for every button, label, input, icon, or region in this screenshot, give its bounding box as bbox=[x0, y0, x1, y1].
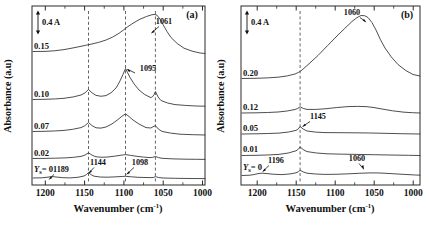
panel-b-scalebar-label: 0.4 A bbox=[251, 18, 269, 27]
panel-b-curve-label-2: 0.05 bbox=[243, 123, 258, 133]
panel-a-xtick-3: 1050 bbox=[154, 188, 173, 198]
panel-b-scalebar: 0.4 A bbox=[245, 11, 269, 35]
panel-b-curve-ys0 bbox=[242, 170, 420, 175]
panel-a-curve-label-0: 0.15 bbox=[34, 41, 49, 51]
panel-a-scalebar-label: 0.4 A bbox=[42, 18, 60, 27]
panel-b: 0.4 A (b) 0.20 0.12 0.05 0.01 Ys= 0 1060… bbox=[215, 6, 423, 215]
panel-a-annotation-1061: 1061 bbox=[151, 17, 172, 33]
panel-a-curve-010 bbox=[33, 69, 205, 107]
panel-b-y-axis-title: Absorbance (a.u) bbox=[215, 59, 227, 132]
panel-a-y-axis-title: Absorbance (a.u) bbox=[2, 59, 14, 132]
panel-a-curve-label-3: 0.02 bbox=[34, 148, 49, 158]
panel-b-x-axis-title: Wavenumber (cm-1) bbox=[285, 202, 375, 215]
panel-a-x-axis-title-close: ) bbox=[159, 203, 163, 215]
panel-b-annotation-1145: 1145 bbox=[302, 112, 326, 127]
panel-a-xtick-2: 1100 bbox=[115, 188, 134, 198]
panel-b-x-axis-title-close: ) bbox=[371, 203, 375, 215]
ftir-spectra-figure: 0.4 A (a) 0.15 0.10 0.07 0.02 Ys= 0 1061… bbox=[0, 0, 429, 229]
panel-b-x-axis-title-main: Wavenumber (cm bbox=[285, 203, 365, 215]
panel-b-id: (b) bbox=[401, 9, 413, 21]
panel-b-xtick-1: 1150 bbox=[287, 188, 306, 198]
panel-b-curve-005 bbox=[242, 127, 420, 135]
panel-b-curve-001 bbox=[242, 147, 420, 156]
figure-svg: 0.4 A (a) 0.15 0.10 0.07 0.02 Ys= 0 1061… bbox=[0, 0, 429, 229]
panel-a-annotation-1144: 1144 bbox=[88, 158, 106, 174]
panel-a-peak-label-1189: 1189 bbox=[53, 165, 69, 174]
panel-a-curve-label-1: 0.10 bbox=[34, 89, 49, 99]
panel-a-xtick-1: 1150 bbox=[75, 188, 94, 198]
panel-b-peak-label-1145: 1145 bbox=[310, 112, 326, 121]
panel-b-xtick-2: 1100 bbox=[326, 188, 345, 198]
panel-a-scalebar: 0.4 A bbox=[36, 11, 60, 35]
panel-a-peak-label-1061: 1061 bbox=[156, 17, 172, 26]
panel-b-curve-label-1: 0.12 bbox=[243, 102, 258, 112]
panel-a: 0.4 A (a) 0.15 0.10 0.07 0.02 Ys= 0 1061… bbox=[2, 6, 212, 215]
panel-b-curve-012 bbox=[242, 106, 420, 113]
panel-a-xtick-4: 1000 bbox=[193, 188, 212, 198]
panel-a-annotation-1095: 1095 bbox=[126, 64, 156, 73]
panel-b-curve-label-3: 0.01 bbox=[243, 144, 258, 154]
panel-a-curve-002 bbox=[33, 153, 205, 160]
panel-b-peak-label-1196: 1196 bbox=[268, 156, 284, 165]
panel-b-xtick-4: 1000 bbox=[404, 188, 423, 198]
panel-b-x-minor-ticks bbox=[277, 6, 394, 185]
panel-b-curve-label-0: 0.20 bbox=[243, 68, 258, 78]
panel-a-xtick-0: 1200 bbox=[36, 188, 55, 198]
panel-b-ys-label: Ys= 0 bbox=[243, 162, 262, 173]
panel-b-peak-label-1060-top: 1060 bbox=[344, 8, 360, 17]
panel-b-annotation-1196: 1196 bbox=[262, 156, 284, 172]
panel-a-x-axis-title-main: Wavenumber (cm bbox=[73, 203, 153, 215]
panel-b-xtick-3: 1050 bbox=[365, 188, 384, 198]
panel-a-ys-value: = 0 bbox=[42, 164, 53, 174]
panel-a-id: (a) bbox=[186, 9, 198, 21]
panel-b-peak-label-1060-bottom: 1060 bbox=[349, 154, 365, 163]
panel-b-xtick-0: 1200 bbox=[248, 188, 267, 198]
panel-a-annotation-1098: 1098 bbox=[126, 158, 148, 175]
panel-a-curve-label-2: 0.07 bbox=[34, 121, 50, 131]
panel-a-peak-label-1098: 1098 bbox=[132, 158, 148, 167]
panel-a-x-major-ticks bbox=[45, 6, 202, 185]
panel-a-curve-007 bbox=[33, 114, 205, 135]
panel-b-annotation-1060-bottom: 1060 bbox=[349, 154, 365, 170]
panel-a-x-axis-title: Wavenumber (cm-1) bbox=[73, 202, 163, 215]
panel-b-ys-value: = 0 bbox=[251, 162, 262, 172]
panel-a-ys-label: Ys= 0 bbox=[34, 164, 53, 175]
panel-a-peak-label-1144: 1144 bbox=[90, 158, 106, 167]
panel-a-peak-label-1095: 1095 bbox=[140, 64, 156, 73]
